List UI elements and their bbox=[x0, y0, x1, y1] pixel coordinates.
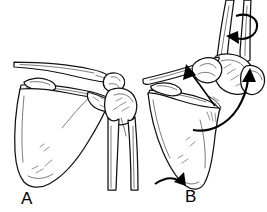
panel-label-a: A bbox=[21, 190, 32, 207]
figure-illustration bbox=[0, 0, 267, 212]
panel-b-illustration bbox=[143, 0, 265, 189]
humerus-shaft-a bbox=[108, 117, 138, 190]
panel-a-illustration bbox=[14, 62, 138, 190]
anatomical-figure: A B bbox=[0, 0, 267, 212]
panel-label-b: B bbox=[185, 188, 196, 205]
acromion-b bbox=[192, 58, 222, 83]
